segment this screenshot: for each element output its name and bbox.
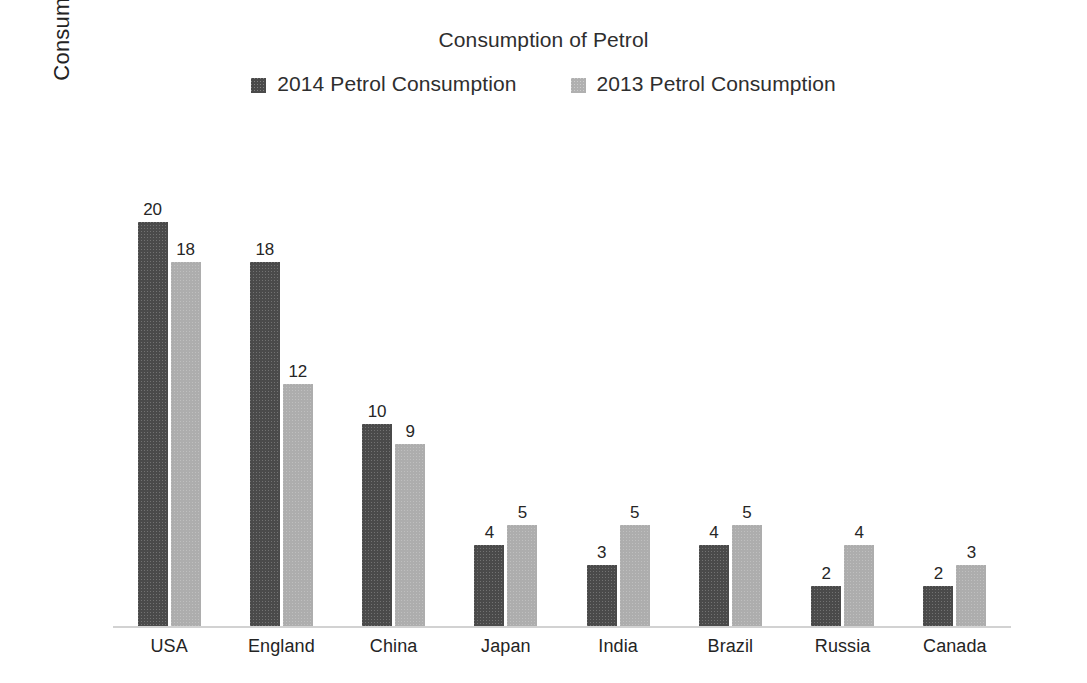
x-axis-tick-label: Russia bbox=[787, 636, 899, 657]
chart-title: Consumption of Petrol bbox=[0, 28, 1087, 52]
legend-item-2014[interactable]: 2014 Petrol Consumption bbox=[251, 72, 516, 96]
bar-value-label: 5 bbox=[742, 504, 751, 521]
bar[interactable] bbox=[283, 384, 313, 626]
bar-group: 24 bbox=[787, 130, 899, 626]
bar-value-label: 18 bbox=[176, 241, 195, 258]
bar-value-label: 10 bbox=[368, 403, 387, 420]
bar-group: 23 bbox=[899, 130, 1011, 626]
bar-slot: 4 bbox=[844, 130, 874, 626]
bar[interactable] bbox=[138, 222, 168, 626]
bar[interactable] bbox=[923, 586, 953, 626]
bar[interactable] bbox=[844, 545, 874, 626]
x-axis-tick-label: Japan bbox=[450, 636, 562, 657]
bar[interactable] bbox=[395, 444, 425, 626]
bar[interactable] bbox=[956, 565, 986, 626]
legend-item-2013[interactable]: 2013 Petrol Consumption bbox=[571, 72, 836, 96]
legend-swatch-icon-2014 bbox=[251, 78, 266, 93]
bar-value-label: 5 bbox=[630, 504, 639, 521]
bar[interactable] bbox=[474, 545, 504, 626]
bar-slot: 2 bbox=[811, 130, 841, 626]
bar-value-label: 20 bbox=[143, 201, 162, 218]
chart-legend: 2014 Petrol Consumption 2013 Petrol Cons… bbox=[0, 72, 1087, 96]
bar-value-label: 4 bbox=[709, 524, 718, 541]
bar-slot: 18 bbox=[250, 130, 280, 626]
bar-slot: 4 bbox=[474, 130, 504, 626]
bar-group: 2018 bbox=[113, 130, 225, 626]
bar-value-label: 18 bbox=[255, 241, 274, 258]
bar-group: 45 bbox=[450, 130, 562, 626]
bar-group: 45 bbox=[674, 130, 786, 626]
y-axis-title: Consumption (millions) per day bbox=[44, 0, 80, 172]
bar-slot: 18 bbox=[171, 130, 201, 626]
bar-value-label: 3 bbox=[597, 544, 606, 561]
bar[interactable] bbox=[732, 525, 762, 626]
bar-slot: 3 bbox=[956, 130, 986, 626]
x-axis-tick-label: USA bbox=[113, 636, 225, 657]
bar-slot: 20 bbox=[138, 130, 168, 626]
bar-value-label: 2 bbox=[934, 565, 943, 582]
bar[interactable] bbox=[699, 545, 729, 626]
legend-label-2014: 2014 Petrol Consumption bbox=[277, 72, 516, 96]
bar[interactable] bbox=[171, 262, 201, 626]
bar-value-label: 3 bbox=[967, 544, 976, 561]
legend-label-2013: 2013 Petrol Consumption bbox=[597, 72, 836, 96]
x-axis-tick-label: Brazil bbox=[674, 636, 786, 657]
bar[interactable] bbox=[620, 525, 650, 626]
bar[interactable] bbox=[250, 262, 280, 626]
legend-swatch-icon-2013 bbox=[571, 78, 586, 93]
bar-group: 35 bbox=[562, 130, 674, 626]
x-axis-tick-label: China bbox=[338, 636, 450, 657]
bar-value-label: 2 bbox=[821, 565, 830, 582]
bar-groups: 201818121094535452423 bbox=[113, 130, 1011, 626]
plot-area: 201818121094535452423 bbox=[113, 130, 1011, 628]
bar-slot: 9 bbox=[395, 130, 425, 626]
bar-slot: 10 bbox=[362, 130, 392, 626]
bar-value-label: 5 bbox=[518, 504, 527, 521]
bar-slot: 4 bbox=[699, 130, 729, 626]
bar-slot: 3 bbox=[587, 130, 617, 626]
bar-slot: 5 bbox=[507, 130, 537, 626]
bar-group: 109 bbox=[338, 130, 450, 626]
bar[interactable] bbox=[587, 565, 617, 626]
bar-value-label: 9 bbox=[405, 423, 414, 440]
bar[interactable] bbox=[362, 424, 392, 626]
bar[interactable] bbox=[811, 586, 841, 626]
x-axis-tick-label: Canada bbox=[899, 636, 1011, 657]
bar-value-label: 12 bbox=[288, 363, 307, 380]
bar-value-label: 4 bbox=[854, 524, 863, 541]
bar-slot: 5 bbox=[732, 130, 762, 626]
x-axis-tick-labels: USAEnglandChinaJapanIndiaBrazilRussiaCan… bbox=[113, 636, 1011, 657]
bar-chart: Consumption of Petrol 2014 Petrol Consum… bbox=[0, 0, 1087, 683]
x-axis-line bbox=[113, 626, 1011, 628]
x-axis-tick-label: England bbox=[225, 636, 337, 657]
bar-slot: 5 bbox=[620, 130, 650, 626]
bar-slot: 2 bbox=[923, 130, 953, 626]
x-axis-tick-label: India bbox=[562, 636, 674, 657]
bar-slot: 12 bbox=[283, 130, 313, 626]
bar-group: 1812 bbox=[225, 130, 337, 626]
bar[interactable] bbox=[507, 525, 537, 626]
bar-value-label: 4 bbox=[485, 524, 494, 541]
